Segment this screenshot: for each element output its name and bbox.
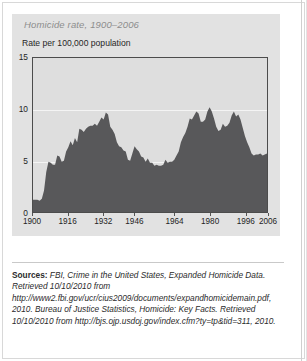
sources-label: Sources:: [12, 270, 48, 280]
scan-gutter-line: [301, 0, 302, 361]
sources-note: Sources: FBI, Crime in the United States…: [12, 270, 290, 327]
y-tick-5: 5: [12, 156, 28, 166]
x-tick-mark-1946: [134, 213, 135, 216]
x-tick-mark-1932: [103, 213, 104, 216]
x-tick-mark-1916: [68, 213, 69, 216]
y-axis-title: Rate per 100,000 population: [22, 38, 130, 48]
x-tick-mark-1964: [174, 213, 175, 216]
x-tick-1964: 1964: [165, 217, 183, 226]
plot-area: [32, 57, 268, 213]
x-tick-1980: 1980: [201, 217, 219, 226]
homicide-rate-area-series: [33, 58, 267, 212]
figure-panel: Homicide rate, 1900–2006 Rate per 100,00…: [12, 14, 280, 236]
x-tick-mark-1900: [32, 213, 33, 216]
sources-divider: [12, 262, 284, 263]
x-tick-1996: 1996: [237, 217, 255, 226]
scan-gutter-edge: [306, 0, 307, 361]
x-tick-1932: 1932: [94, 217, 112, 226]
x-tick-mark-1980: [210, 213, 211, 216]
x-tick-mark-2006: [268, 213, 269, 216]
y-tick-15: 15: [12, 52, 28, 62]
figure-title: Homicide rate, 1900–2006: [24, 19, 139, 30]
x-tick-1900: 1900: [23, 217, 41, 226]
sources-citation: FBI, Crime in the United States, Expande…: [12, 270, 276, 326]
x-tick-2006: 2006: [259, 217, 277, 226]
x-tick-1946: 1946: [125, 217, 143, 226]
x-tick-1916: 1916: [59, 217, 77, 226]
x-tick-mark-1996: [246, 213, 247, 216]
scanned-page: Homicide rate, 1900–2006 Rate per 100,00…: [0, 0, 307, 361]
y-tick-10: 10: [12, 104, 28, 114]
